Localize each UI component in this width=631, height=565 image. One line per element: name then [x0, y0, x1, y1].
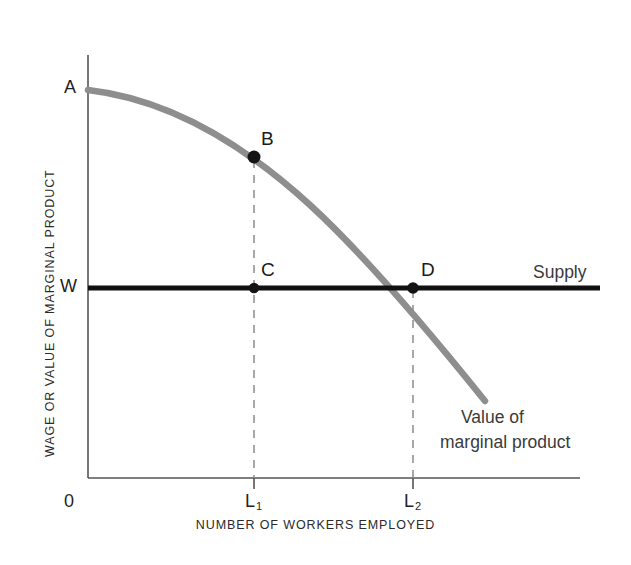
x-tick-label-l1: L1: [245, 492, 261, 510]
y-axis-title: WAGE OR VALUE OF MARGINAL PRODUCT: [44, 57, 57, 457]
supply-curve-label: Supply: [533, 261, 587, 284]
vmp-curve-label-line1: Value of: [461, 406, 524, 429]
value-of-marginal-product-curve: [88, 90, 485, 401]
point-label-d: D: [421, 260, 435, 279]
economics-figure: WAGE OR VALUE OF MARGINAL PRODUCT NUMBER…: [0, 0, 631, 565]
point-c-marker: [249, 283, 259, 293]
vmp-curve-label-line2: marginal product: [440, 431, 570, 454]
point-label-c: C: [261, 260, 275, 279]
y-tick-label-w: W: [60, 277, 77, 295]
x-tick-label-l2: L2: [404, 492, 420, 510]
x-tick-label-l1-sub: 1: [256, 500, 262, 512]
y-tick-label-a: A: [64, 78, 76, 96]
point-label-b: B: [261, 129, 274, 148]
point-b-marker: [248, 151, 261, 164]
point-d-marker: [407, 282, 419, 294]
x-tick-label-l2-text: L: [404, 491, 414, 511]
origin-label: 0: [64, 492, 74, 510]
x-axis-title: NUMBER OF WORKERS EMPLOYED: [0, 519, 631, 532]
x-tick-label-l1-text: L: [245, 491, 255, 511]
x-tick-label-l2-sub: 2: [415, 500, 421, 512]
